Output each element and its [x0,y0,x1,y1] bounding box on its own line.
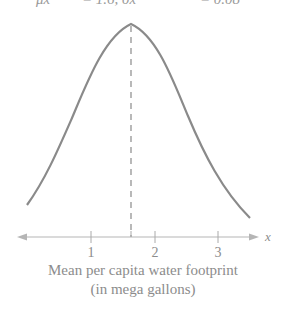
axis-right-arrow-icon [249,234,259,241]
tick-label-1: 1 [88,245,95,260]
tick-label-3: 3 [215,245,222,260]
bell-curve [27,24,250,218]
tick-label-2: 2 [152,245,159,260]
axis-variable-label: x [264,229,271,244]
axis-left-arrow-icon [17,234,27,241]
axis-title-line-1: Mean per capita water footprint [0,262,286,279]
axis-title-line-2: (in mega gallons) [0,281,286,298]
